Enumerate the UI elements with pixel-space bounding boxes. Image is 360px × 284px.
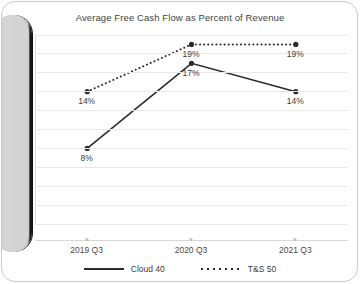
chart-title: Average Free Cash Flow as Percent of Rev… (2, 12, 358, 23)
gridline (35, 35, 348, 36)
chart-legend: Cloud 40 T&S 50 (2, 264, 358, 274)
vertical-scrollbar-thumb[interactable] (1, 15, 29, 252)
x-axis-tick-mark (294, 238, 297, 241)
legend-label: Cloud 40 (131, 264, 165, 274)
data-point-label: 14% (78, 96, 95, 106)
gridline (35, 148, 348, 149)
gridline (35, 129, 348, 130)
gridline (35, 224, 348, 225)
legend-label: T&S 50 (248, 264, 276, 274)
data-point-label: 19% (182, 49, 199, 59)
gridline (35, 186, 348, 187)
data-point-marker[interactable] (188, 41, 193, 46)
data-point-label: 19% (287, 49, 304, 59)
data-point-label: 17% (182, 68, 199, 78)
gridline (35, 91, 348, 92)
x-axis-tick-mark (85, 238, 88, 241)
legend-item-cloud-40[interactable]: Cloud 40 (84, 264, 165, 274)
x-axis-tick-label: 2021 Q3 (279, 245, 312, 255)
data-point-marker[interactable] (188, 60, 193, 65)
dotted-line-icon (201, 268, 241, 270)
data-point-marker[interactable] (293, 41, 298, 46)
x-axis-tick-mark (190, 238, 193, 241)
legend-item-ts-50[interactable]: T&S 50 (201, 264, 276, 274)
plot-area (35, 35, 348, 224)
data-point-label: 14% (287, 96, 304, 106)
x-axis-tick-label: 2020 Q3 (175, 245, 208, 255)
x-axis-tick-label: 2019 Q3 (70, 245, 103, 255)
gridline (35, 167, 348, 168)
data-point-label: 8% (81, 153, 93, 163)
vertical-scrollbar[interactable] (1, 15, 32, 252)
chart-frame: Average Free Cash Flow as Percent of Rev… (1, 1, 358, 282)
gridline (35, 205, 348, 206)
solid-line-icon (84, 268, 124, 270)
gridline (35, 110, 348, 111)
